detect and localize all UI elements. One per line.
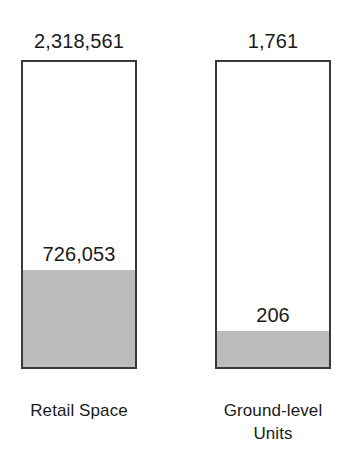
category-label-line: Retail Space	[0, 399, 159, 422]
bar-group-retail-space: 2,318,561 726,053 Retail Space	[0, 0, 159, 464]
bar-fill-retail-space	[23, 270, 135, 367]
stacked-bar-chart: 2,318,561 726,053 Retail Space 1,761 206…	[0, 0, 353, 464]
bar-ground-level-units	[215, 60, 331, 369]
bar-total-label-ground-level-units: 1,761	[193, 29, 353, 53]
bar-retail-space	[21, 60, 137, 369]
category-label-line: Units	[193, 422, 353, 445]
category-label-line: Ground-level	[193, 399, 353, 422]
category-label-retail-space: Retail Space	[0, 399, 159, 422]
bar-group-ground-level-units: 1,761 206 Ground-level Units	[193, 0, 353, 464]
category-label-ground-level-units: Ground-level Units	[193, 399, 353, 445]
bar-total-label-retail-space: 2,318,561	[0, 29, 159, 53]
bar-fill-ground-level-units	[217, 331, 329, 367]
